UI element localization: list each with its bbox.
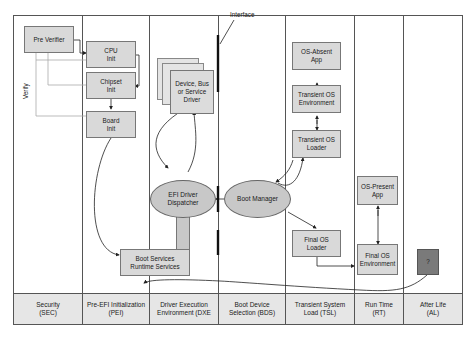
cpu-init-box: CPU Init bbox=[86, 41, 136, 68]
final-os-loader-box: Final OS Loader bbox=[292, 230, 341, 257]
os-present-app-box: OS-Present App bbox=[357, 176, 398, 205]
boot-manager: Boot Manager bbox=[224, 180, 291, 218]
transient-os-environment-box: Transient OS Environment bbox=[292, 85, 341, 113]
chipset-init-box: Chipset Init bbox=[86, 72, 136, 99]
verify-label: Verify bbox=[22, 83, 29, 99]
boot-services-box: Boot Services Runtime Services bbox=[120, 249, 190, 276]
os-absent-app-box: OS-Absent App bbox=[292, 42, 341, 70]
board-init-box: Board Init bbox=[86, 111, 136, 138]
transient-os-loader-box: Transient OS Loader bbox=[292, 130, 341, 158]
interface-label: Interface bbox=[230, 11, 255, 18]
pre-verifier-box: Pre Verifier bbox=[24, 26, 74, 53]
final-os-environment-box: Final OS Environment bbox=[357, 244, 398, 275]
device-bus-service-driver-box: Device, Bus or Service Driver bbox=[170, 70, 214, 114]
afterlife-box: ? bbox=[417, 249, 439, 275]
efi-driver-dispatcher: EFI Driver Dispatcher bbox=[150, 180, 216, 218]
